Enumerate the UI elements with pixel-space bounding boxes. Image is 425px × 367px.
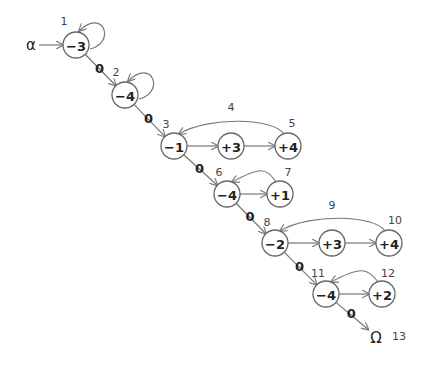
node-index-label: 4 [228,101,235,114]
node-value: +2 [372,288,392,303]
node-value: −2 [265,237,285,252]
edge-label-zero: 0 [295,259,304,274]
node-index-label: 10 [388,214,402,227]
edge-label-zero: 0 [95,61,104,76]
edge-n5-n3 [179,121,284,134]
node-value: +1 [270,188,290,203]
node-index-label: 3 [163,118,170,131]
state-node-12: +2 [369,281,395,307]
state-node-6: −4 [214,181,240,207]
node-value: +3 [221,140,241,155]
start-label: α [26,36,36,54]
node-index-label: 7 [285,166,292,179]
node-index-label: 9 [329,199,336,212]
state-node-4: +3 [218,133,244,159]
state-node-1: −3 [63,32,89,58]
state-node-10: +4 [376,230,402,256]
edge-n7-n6 [232,171,276,182]
end-index-label: 13 [392,330,406,343]
node-index-label: 1 [61,15,68,28]
state-diagram: −3−4−1+3+4−4+1−2+3+4−4+2 000000123456789… [0,0,425,367]
end-label: Ω [370,329,381,347]
node-index-label: 12 [381,267,395,280]
node-value: −4 [217,188,237,203]
node-index-label: 6 [216,166,223,179]
node-value: +3 [322,237,342,252]
edge-label-zero: 0 [245,209,254,224]
node-value: −4 [316,288,336,303]
node-index-label: 5 [289,117,296,130]
node-value: −3 [66,39,86,54]
edge-label-zero: 0 [144,111,153,126]
node-value: +4 [379,237,399,252]
node-value: −4 [115,89,135,104]
state-node-9: +3 [319,230,345,256]
node-index-label: 11 [311,267,325,280]
state-node-2: −4 [112,82,138,108]
edge-label-zero: 0 [347,306,356,321]
state-node-7: +1 [267,181,293,207]
state-node-5: +4 [275,133,301,159]
node-index-label: 2 [113,66,120,79]
state-node-11: −4 [313,281,339,307]
edge-n10-n8 [280,218,385,231]
edge-n12-n11 [331,271,378,282]
state-node-8: −2 [262,230,288,256]
node-index-label: 8 [264,216,271,229]
edge-label-zero: 0 [195,161,204,176]
node-value: +4 [278,140,298,155]
node-value: −1 [164,140,184,155]
state-node-3: −1 [161,133,187,159]
